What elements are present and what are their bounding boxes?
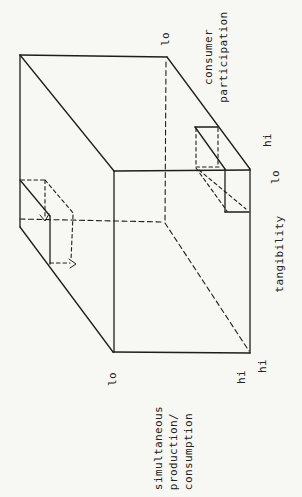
axis-consumer-participation-line2: participation: [216, 11, 231, 102]
label-consumer-participation-hi: hi: [260, 133, 275, 147]
left-cell-top-diagonal: [20, 180, 50, 216]
hidden-edge-bottom-back: [20, 219, 164, 222]
hidden-edge-back-right-vertical: [165, 62, 166, 222]
cube-hidden-edges: [20, 62, 249, 351]
axis-label-consumer-participation: consumer participation: [201, 11, 231, 102]
label-bottom-axis-lo: lo: [105, 372, 120, 386]
right-cell-hidden-diagonal-steep: [196, 168, 227, 211]
edge-front-bottom: [113, 352, 250, 353]
right-cell-hidden-diagonal-shallow: [199, 170, 246, 209]
axis-spc-line2: production/: [166, 406, 181, 490]
axis-spc-line3: consumption: [181, 406, 196, 490]
axis-spc-line1: simultaneous: [151, 406, 166, 490]
right-cell-top-diagonal: [195, 127, 225, 169]
left-corner-cell: [20, 180, 76, 268]
left-cell-hidden-diagonal: [45, 180, 74, 214]
axis-consumer-participation-line1: consumer: [201, 11, 216, 102]
edge-front-top: [114, 170, 250, 171]
axis-label-tangibility: tangibility: [272, 215, 287, 292]
edge-bottom-left-diagonal: [20, 227, 113, 352]
hidden-edge-bottom-right-diagonal: [165, 223, 249, 351]
left-cell-hidden-right-vertical: [71, 215, 73, 260]
label-bottom-axis-hi: hi: [234, 370, 249, 384]
left-cell-arrows: [40, 214, 76, 268]
scanned-figure-page: lo consumer participation hi lo tangibil…: [0, 0, 302, 497]
edge-top-back: [20, 55, 167, 57]
label-tangibility-lo: lo: [268, 170, 283, 184]
axis-label-simultaneous-production-consumption: simultaneous production/ consumption: [151, 406, 196, 490]
label-tangibility-hi: hi: [255, 359, 270, 373]
label-consumer-participation-lo: lo: [158, 32, 173, 46]
edge-top-left-diagonal: [20, 55, 114, 171]
